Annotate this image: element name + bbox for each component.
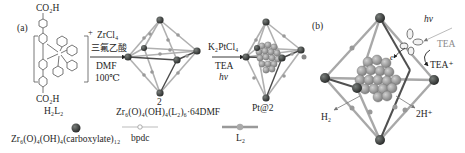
octahedron-cage-photocatalysis xyxy=(320,13,439,145)
ir-complex xyxy=(400,29,423,55)
ligand-structure xyxy=(34,13,88,93)
scheme-graphics xyxy=(0,0,465,153)
product1-formula: Zr₆(O)₄(OH)₄(L₂)₆·64DMF xyxy=(116,108,220,118)
pt-nanocluster-large xyxy=(355,55,401,102)
photon-label: hν xyxy=(424,15,433,25)
step1-reagent-zrcl4: ZrCl₄ xyxy=(97,31,118,41)
octahedron-cage-pt2 xyxy=(242,18,304,101)
octahedron-cage-2 xyxy=(124,16,200,96)
step1-solvent: DMF xyxy=(96,62,117,72)
legend-l2-rod-icon xyxy=(222,124,258,130)
product2-id: Pt@2 xyxy=(252,104,273,114)
step2-light: hν xyxy=(219,73,228,83)
donor-oxidized-label: TEA⁺ xyxy=(430,61,453,71)
legend-l2-label: L₂ xyxy=(236,134,245,144)
proton-label: 2H⁺ xyxy=(416,110,433,120)
edge-node xyxy=(302,55,307,60)
panel-label-b: (b) xyxy=(312,22,323,32)
legend-bpdc-label: bpdc xyxy=(131,134,149,144)
legend-bpdc-rod-icon xyxy=(122,125,158,129)
ligand-top-group: CO₂H xyxy=(36,4,59,14)
legend-node-label: Zr₆(O)₄(OH)₄(carboxylate)₁₂ xyxy=(11,135,120,145)
h2-arrow xyxy=(334,96,360,110)
step2-base: TEA xyxy=(215,62,233,72)
figure: (a) CO₂H CO₂H H₂L₂ + ZrCl₄ 三氟乙酸 DMF 100℃… xyxy=(0,0,465,153)
proton-arrow xyxy=(396,96,415,108)
ligand-bottom-group: CO₂H xyxy=(36,95,59,105)
panel-label-a: (a) xyxy=(17,24,28,34)
legend-sphere-icon xyxy=(72,124,81,133)
donor-label: TEA xyxy=(437,40,455,50)
electron-label: e xyxy=(390,53,394,62)
ligand-charge: + xyxy=(88,28,93,37)
ligand-name: H₂L₂ xyxy=(44,107,63,117)
h2-label: H₂ xyxy=(321,113,331,123)
step1-reagent-tfa: 三氟乙酸 xyxy=(91,44,127,53)
step2-reagent: K₂PtCl₄ xyxy=(208,43,238,53)
step1-temperature: 100℃ xyxy=(95,74,120,84)
